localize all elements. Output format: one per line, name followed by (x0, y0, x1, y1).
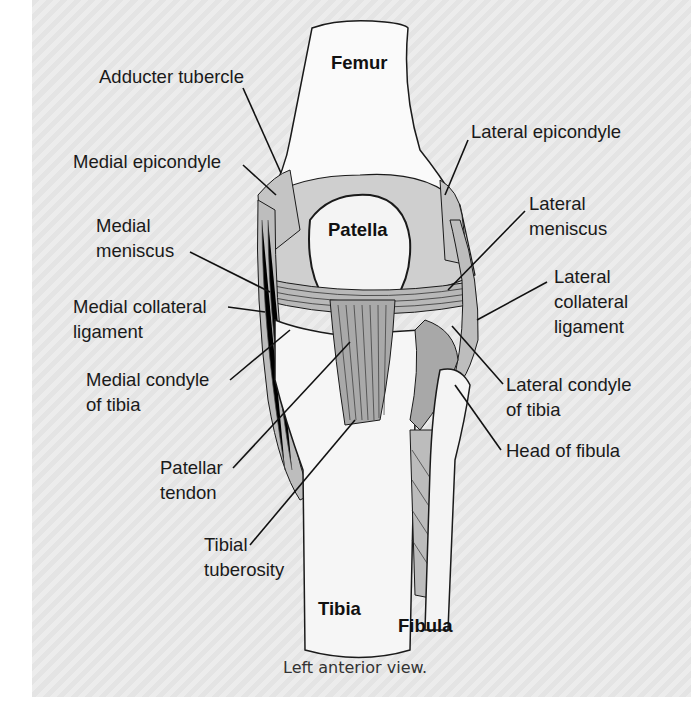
label-lateral-collateral-3: ligament (554, 316, 624, 338)
label-medial-meniscus-2: meniscus (96, 240, 174, 262)
label-lateral-condyle-2: of tibia (506, 399, 561, 421)
label-tibial-tuberosity-2: tuberosity (204, 559, 284, 581)
label-medial-collateral-2: ligament (73, 321, 143, 343)
label-medial-condyle-2: of tibia (86, 394, 141, 416)
label-tibial-tuberosity-1: Tibial (204, 534, 248, 556)
label-femur: Femur (331, 52, 388, 74)
label-lateral-collateral-2: collateral (554, 291, 628, 313)
label-medial-collateral-1: Medial collateral (73, 296, 207, 318)
label-lateral-meniscus-1: Lateral (529, 193, 586, 215)
label-patellar-tendon-1: Patellar (160, 457, 223, 479)
label-head-of-fibula: Head of fibula (506, 440, 620, 462)
label-lateral-condyle-1: Lateral condyle (506, 374, 631, 396)
label-fibula: Fibula (398, 615, 452, 637)
label-lateral-epicondyle: Lateral epicondyle (471, 121, 621, 143)
label-lateral-collateral-1: Lateral (554, 266, 611, 288)
label-lateral-meniscus-2: meniscus (529, 218, 607, 240)
label-patella: Patella (328, 219, 388, 241)
label-adducter-tubercle: Adducter tubercle (99, 66, 244, 88)
label-tibia: Tibia (318, 598, 361, 620)
label-medial-epicondyle: Medial epicondyle (73, 151, 221, 173)
figure-caption: Left anterior view. (283, 658, 427, 677)
label-medial-meniscus-1: Medial (96, 215, 151, 237)
label-patellar-tendon-2: tendon (160, 482, 217, 504)
label-medial-condyle-1: Medial condyle (86, 369, 209, 391)
